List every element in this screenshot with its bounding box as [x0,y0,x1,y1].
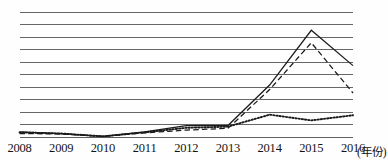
series-line-solid [20,30,354,136]
x-tick-label: 2012 [174,141,198,156]
series-line-dashed [20,43,354,137]
x-tick-label: 2010 [91,141,115,156]
chart-plot-area [0,0,388,160]
x-tick-label: 2009 [49,141,73,156]
x-tick-label: 2013 [216,141,240,156]
x-tick-label: 2008 [7,141,31,156]
x-axis-unit-label: (年份) [357,143,387,159]
line-chart: 200820092010201120122013201420152016 (年份… [0,0,388,160]
x-tick-label: 2015 [299,141,323,156]
x-tick-label: 2014 [257,141,281,156]
series-lines [20,30,354,136]
x-tick-label: 2011 [133,141,157,156]
